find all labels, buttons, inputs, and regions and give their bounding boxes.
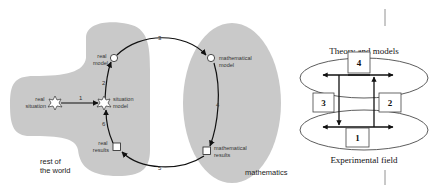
box-3: 3 bbox=[313, 93, 334, 112]
label-rest-of-world: rest of the world bbox=[40, 157, 70, 175]
box-2: 2 bbox=[379, 93, 401, 112]
mathematical-model-node-icon bbox=[207, 54, 214, 61]
mathematical-results-node-icon bbox=[203, 147, 211, 155]
step-5-label: 5 bbox=[158, 165, 162, 171]
modelling-cycle-figure: real situation situation model real mode… bbox=[0, 0, 442, 190]
label-mathematics: mathematics bbox=[245, 168, 288, 177]
svg-text:4: 4 bbox=[357, 58, 362, 68]
mathematics-region bbox=[183, 23, 281, 183]
box-4: 4 bbox=[348, 52, 370, 73]
svg-text:2: 2 bbox=[388, 98, 393, 108]
real-results-node-icon bbox=[113, 143, 121, 151]
svg-text:1: 1 bbox=[355, 133, 360, 143]
svg-text:3: 3 bbox=[321, 98, 326, 108]
box-1: 1 bbox=[346, 128, 369, 147]
real-model-node-icon bbox=[110, 54, 117, 61]
experimental-field-label: Experimental field bbox=[330, 155, 398, 165]
